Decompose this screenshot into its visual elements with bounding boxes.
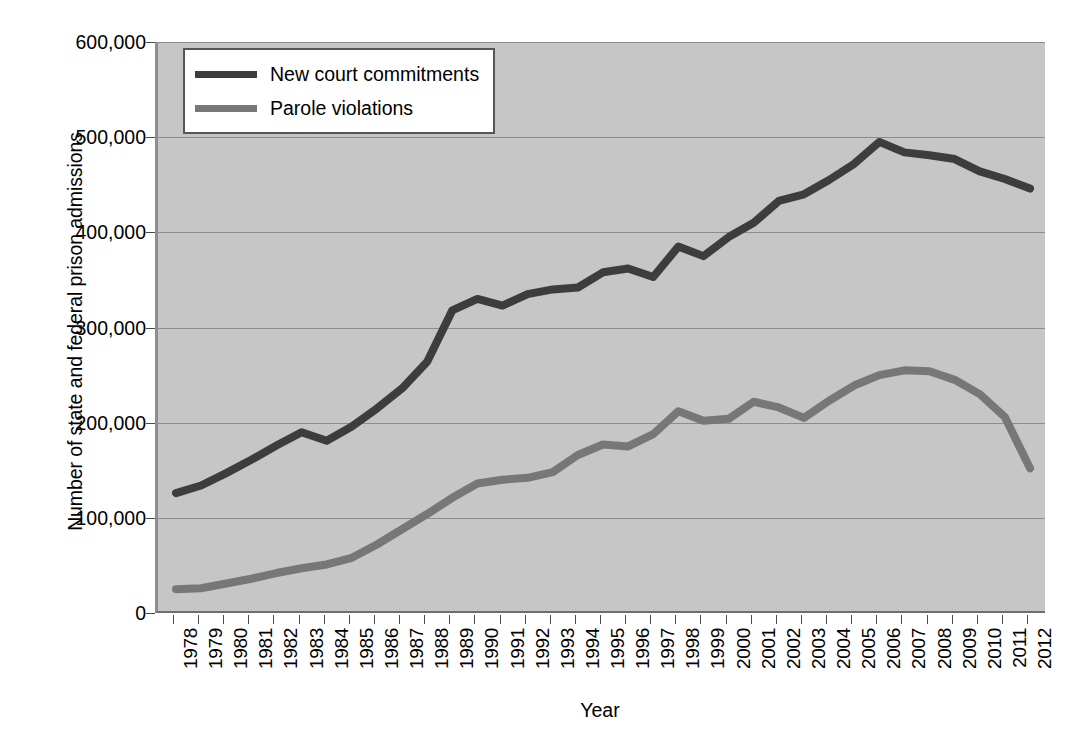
x-axis-tick-label: 1985 <box>356 628 378 669</box>
y-axis-tick-mark <box>146 232 155 233</box>
legend-swatch-new-court-commitments <box>195 71 257 78</box>
x-axis-tick-mark <box>901 615 902 624</box>
legend-item-parole-violations: Parole violations <box>195 91 479 125</box>
y-axis-tick-label: 300,000 <box>6 316 146 339</box>
x-axis-tick-mark <box>600 615 601 624</box>
x-axis-tick-mark <box>449 615 450 624</box>
x-axis-tick-label: 2008 <box>934 628 956 669</box>
x-axis-tick-mark <box>625 615 626 624</box>
x-axis-tick-mark <box>826 615 827 624</box>
x-axis-tick-mark <box>751 615 752 624</box>
x-axis-tick-label: 1980 <box>230 628 252 669</box>
x-axis-tick-mark <box>876 615 877 624</box>
x-axis-tick-mark <box>424 615 425 624</box>
x-axis-tick-mark <box>525 615 526 624</box>
x-axis-tick-label: 2004 <box>833 628 855 669</box>
x-axis-tick-mark <box>1002 615 1003 624</box>
x-axis-tick-mark <box>474 615 475 624</box>
x-axis-tick-label: 1992 <box>532 628 554 669</box>
x-axis-tick-label: 2006 <box>883 628 905 669</box>
legend-label-parole-violations: Parole violations <box>270 97 413 120</box>
x-axis-tick-mark <box>927 615 928 624</box>
y-axis-tick-label: 100,000 <box>6 506 146 529</box>
x-axis-tick-mark <box>198 615 199 624</box>
series-line-new-court-commitments <box>176 142 1030 493</box>
x-axis-tick-label: 2005 <box>858 628 880 669</box>
x-axis-tick-label: 1984 <box>331 628 353 669</box>
x-axis-tick-label: 1978 <box>180 628 202 669</box>
x-axis-tick-mark <box>1027 615 1028 624</box>
x-axis-tick-mark <box>349 615 350 624</box>
x-axis-tick-label: 1993 <box>557 628 579 669</box>
x-axis-tick-label: 1979 <box>205 628 227 669</box>
x-axis-tick-label: 2011 <box>1009 628 1031 668</box>
x-axis-tick-mark <box>374 615 375 624</box>
x-axis-tick-label: 1983 <box>306 628 328 669</box>
x-axis-tick-label: 1982 <box>280 628 302 669</box>
x-axis-tick-mark <box>575 615 576 624</box>
y-axis-tick-mark <box>146 423 155 424</box>
y-axis-tick-label: 600,000 <box>6 31 146 54</box>
x-axis-tick-label: 2002 <box>783 628 805 669</box>
x-axis-tick-mark <box>500 615 501 624</box>
y-axis-tick-mark <box>146 518 155 519</box>
x-axis-tick-label: 2010 <box>984 628 1006 669</box>
x-axis-tick-label: 1987 <box>406 628 428 669</box>
legend-item-new-court-commitments: New court commitments <box>195 57 479 91</box>
x-axis-tick-label: 1996 <box>632 628 654 669</box>
x-axis-tick-label: 1981 <box>255 628 277 669</box>
x-axis-tick-mark <box>223 615 224 624</box>
x-axis-title: Year <box>155 699 1045 722</box>
x-axis-tick-mark <box>173 615 174 624</box>
x-axis-tick-label: 1990 <box>481 628 503 669</box>
x-axis-tick-mark <box>399 615 400 624</box>
x-axis-tick-label: 1998 <box>682 628 704 669</box>
y-axis-tick-label: 400,000 <box>6 221 146 244</box>
y-axis-tick-label: 0 <box>6 602 146 625</box>
x-axis-tick-label: 1989 <box>456 628 478 669</box>
y-axis-tick-mark <box>146 137 155 138</box>
plot-area: New court commitments Parole violations <box>155 42 1045 613</box>
y-axis-tick-mark <box>146 42 155 43</box>
x-axis-tick-label: 1991 <box>507 628 529 669</box>
x-axis-tick-label: 1997 <box>657 628 679 669</box>
legend-label-new-court-commitments: New court commitments <box>270 63 479 86</box>
y-axis-tick-label: 500,000 <box>6 126 146 149</box>
chart-figure: Number of state and federal prison admis… <box>0 0 1078 744</box>
x-axis-tick-mark <box>700 615 701 624</box>
chart-legend: New court commitments Parole violations <box>183 48 495 134</box>
series-line-parole-violations <box>176 370 1030 589</box>
x-axis-tick-mark <box>273 615 274 624</box>
x-axis-tick-mark <box>776 615 777 624</box>
x-axis-tick-mark <box>550 615 551 624</box>
x-axis-tick-label: 1999 <box>707 628 729 669</box>
y-axis-tick-mark <box>146 613 155 614</box>
x-axis-tick-mark <box>675 615 676 624</box>
y-axis-ticks: 0100,000200,000300,000400,000500,000600,… <box>0 0 146 744</box>
x-axis-tick-label: 2009 <box>959 628 981 669</box>
x-axis-tick-mark <box>801 615 802 624</box>
x-axis-tick-label: 1988 <box>431 628 453 669</box>
x-axis-tick-label: 1986 <box>381 628 403 669</box>
x-axis-tick-mark <box>650 615 651 624</box>
y-axis-tick-mark <box>146 328 155 329</box>
x-axis-tick-mark <box>248 615 249 624</box>
x-axis-tick-label: 1994 <box>582 628 604 669</box>
legend-swatch-parole-violations <box>195 105 257 112</box>
x-axis-tick-label: 2000 <box>733 628 755 669</box>
x-axis-tick-label: 2001 <box>758 628 780 669</box>
x-axis-tick-label: 2007 <box>908 628 930 669</box>
x-axis-tick-mark <box>952 615 953 624</box>
x-axis-tick-mark <box>324 615 325 624</box>
x-axis-tick-label: 2012 <box>1034 628 1056 669</box>
x-axis-tick-label: 2003 <box>808 628 830 669</box>
x-axis-tick-mark <box>299 615 300 624</box>
x-axis-tick-mark <box>851 615 852 624</box>
x-axis-tick-mark <box>726 615 727 624</box>
y-axis-tick-label: 200,000 <box>6 411 146 434</box>
x-axis-tick-mark <box>977 615 978 624</box>
x-axis-tick-label: 1995 <box>607 628 629 669</box>
